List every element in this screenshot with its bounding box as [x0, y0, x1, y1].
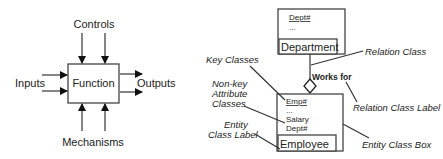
controls-label: Controls	[74, 18, 115, 30]
relation-label: Works for	[312, 72, 352, 82]
annotation-non-key-3: Classes	[212, 98, 246, 109]
outputs-label: Outputs	[137, 77, 176, 89]
department-key-attribute: Dept#	[289, 13, 311, 22]
function-label: Function	[72, 77, 114, 89]
annotation-key-classes: Key Classes	[206, 54, 259, 65]
mechanisms-label: Mechanisms	[62, 136, 124, 148]
leader-entity-class-box	[343, 124, 369, 138]
entity-diagram: Dept# ... Department Works for Emp# ... …	[206, 9, 441, 151]
annotation-relation-class-label: Relation Class Label	[353, 102, 441, 113]
annotation-entity-class-box: Entity Class Box	[362, 139, 432, 150]
leader-relation-class-label	[346, 82, 357, 102]
idef0-diagram: Function Controls Inputs Outputs Mechani…	[15, 18, 176, 148]
employee-attribute-dept: Dept#	[286, 124, 308, 133]
employee-ellipsis: ...	[286, 106, 293, 115]
inputs-label: Inputs	[15, 77, 45, 89]
employee-class-label: Employee	[280, 138, 329, 150]
annotation-relation-class: Relation Class	[365, 46, 426, 57]
leader-entity-class-label	[255, 134, 280, 149]
employee-attribute-salary: Salary	[286, 115, 309, 124]
department-ellipsis: ...	[289, 23, 296, 32]
department-class-label: Department	[281, 41, 338, 53]
diagram-canvas: Function Controls Inputs Outputs Mechani…	[0, 0, 443, 159]
annotation-entity-2: Class Label	[208, 129, 259, 140]
leader-key-classes	[250, 66, 285, 100]
employee-key-attribute: Emp#	[286, 97, 307, 106]
